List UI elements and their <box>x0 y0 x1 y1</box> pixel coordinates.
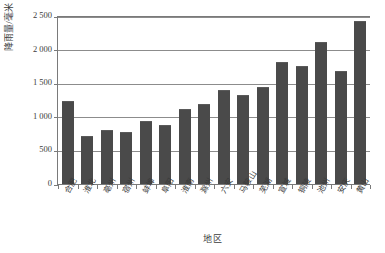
x-axis-tick-label: 阜阳 <box>161 181 174 196</box>
x-axis-tick-label: 黄山 <box>356 181 369 196</box>
bar <box>276 62 288 185</box>
x-axis-tick-label: 宿州 <box>122 181 135 196</box>
y-axis-tick-mark <box>54 84 58 85</box>
y-axis-tick-label: 0 <box>18 179 52 188</box>
bar <box>335 71 347 185</box>
y-axis-tick-mark <box>54 50 58 51</box>
x-axis-title: 地区 <box>57 233 369 245</box>
x-axis-tick-label: 马鞍山 <box>239 181 252 196</box>
bar-series <box>58 17 370 185</box>
y-axis-tick-mark <box>54 151 58 152</box>
x-axis-tick-label: 淮北 <box>83 181 96 196</box>
bar <box>354 21 366 185</box>
bar <box>62 101 74 185</box>
y-axis-tick-label: 1 000 <box>18 112 52 121</box>
bar <box>179 109 191 185</box>
bar <box>218 90 230 185</box>
y-axis-tick-labels: 2 5002 0001 5001 0005000 <box>18 0 52 253</box>
x-axis-tick-labels: 合肥淮北亳州宿州蚌埠阜阳淮南滁州六安马鞍山芜湖宣城铜陵池州安庆黄山 <box>57 186 369 232</box>
bar <box>296 66 308 185</box>
y-axis-title: 降雨量/毫米 <box>2 0 16 72</box>
x-axis-tick-mark <box>370 185 371 189</box>
bar <box>315 42 327 185</box>
x-axis-tick-label: 滁州 <box>200 181 213 196</box>
bar <box>198 104 210 185</box>
y-axis-tick-label: 1 500 <box>18 78 52 87</box>
y-axis-tick-label: 2 000 <box>18 45 52 54</box>
x-axis-tick-label: 池州 <box>317 181 330 196</box>
x-axis-tick-label: 宣城 <box>278 181 291 196</box>
y-axis-tick-mark <box>54 17 58 18</box>
y-axis-tick-label: 500 <box>18 145 52 154</box>
bar <box>237 95 249 185</box>
y-axis-tick-mark <box>54 117 58 118</box>
plot-inner <box>58 17 370 185</box>
y-axis-tick-label: 2 500 <box>18 11 52 20</box>
bar <box>257 87 269 185</box>
rainfall-bar-chart: 降雨量/毫米 2 5002 0001 5001 0005000 合肥淮北亳州宿州… <box>0 0 385 253</box>
plot-area <box>57 16 370 185</box>
